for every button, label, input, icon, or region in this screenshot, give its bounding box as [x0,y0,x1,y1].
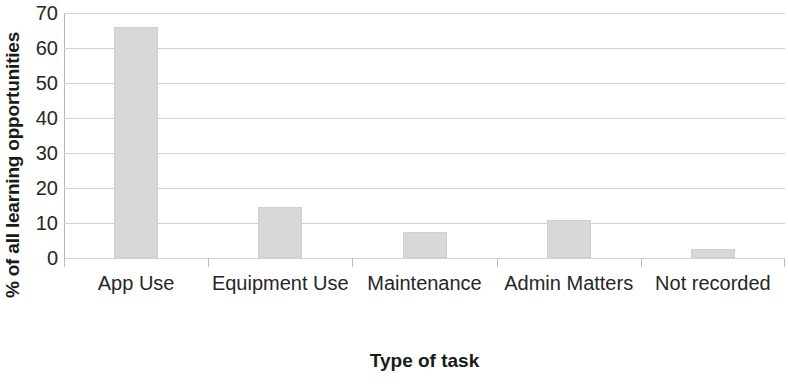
bar-chart: % of all learning opportunities 01020304… [0,0,788,385]
x-axis-category-label: App Use [64,270,208,296]
bar-series [64,13,785,258]
x-axis-tick-mark [208,258,209,267]
x-axis-category-label: Equipment Use [208,270,352,296]
x-axis-tick-mark [352,258,353,267]
y-axis-title-text: % of all learning opportunities [2,32,24,298]
x-axis-tick-mark [784,258,785,267]
y-axis-tick-labels: 010203040506070 [26,0,62,385]
x-axis-title: Type of task [64,350,785,372]
y-axis-tick-label: 0 [24,248,58,268]
bar [547,220,591,259]
y-axis-tick-label: 40 [24,108,58,128]
x-axis-category-label: Admin Matters [497,270,641,296]
plot-area [64,13,785,258]
x-axis-tick-mark [497,258,498,267]
bar [403,232,447,258]
x-axis-category-label: Maintenance [352,270,496,296]
bar [691,249,735,258]
y-axis-tick-label: 10 [24,213,58,233]
x-axis-tick-marks [64,258,785,267]
y-axis-tick-label: 50 [24,73,58,93]
y-axis-title: % of all learning opportunities [0,0,26,330]
bar [258,207,302,258]
y-axis-tick-label: 30 [24,143,58,163]
x-axis-tick-mark [641,258,642,267]
y-axis-tick-label: 70 [24,3,58,23]
y-axis-tick-label: 20 [24,178,58,198]
x-axis-category-labels: App UseEquipment UseMaintenanceAdmin Mat… [64,270,785,330]
x-axis-tick-mark [64,258,65,267]
bar [114,27,158,258]
x-axis-category-label: Not recorded [641,270,785,296]
y-axis-tick-label: 60 [24,38,58,58]
